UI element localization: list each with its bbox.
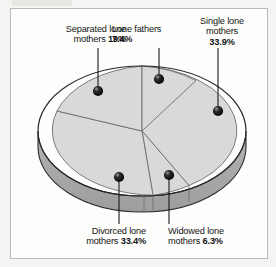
- slice-value-widowed: 6.3%: [203, 236, 223, 246]
- marker-lone-fathers: [154, 74, 164, 84]
- marker-separated: [93, 86, 103, 96]
- slice-label-single: Single lone mothers 33.9%: [186, 16, 258, 47]
- slice-label-widowed: Widowed lone mothers 6.3%: [168, 226, 268, 247]
- pie-top-face: [38, 66, 246, 196]
- slice-value-lone-fathers: 7.4%: [112, 34, 132, 44]
- slice-value-divorced: 33.4%: [121, 236, 146, 246]
- slice-label-single-line2: mothers: [206, 26, 238, 36]
- marker-single: [213, 106, 223, 116]
- slice-label-separated: Separated lone mothers 19%: [22, 24, 126, 45]
- slice-label-widowed-line1: Widowed lone: [168, 226, 224, 236]
- slice-label-widowed-line2: mothers: [168, 236, 203, 246]
- slice-label-lone-fathers-line1: Lone fathers: [112, 24, 161, 34]
- slice-label-divorced-line1: Divorced lone: [92, 226, 146, 236]
- slice-label-single-line1: Single lone: [200, 16, 244, 26]
- marker-widowed: [164, 170, 174, 180]
- slice-label-lone-fathers: Lone fathers 7.4%: [112, 24, 188, 45]
- slice-label-separated-line2: mothers: [74, 34, 109, 44]
- slice-label-divorced: Divorced lone mothers 33.4%: [36, 226, 146, 247]
- marker-divorced: [114, 172, 124, 182]
- pie-chart-figure: Separated lone mothers 19% Lone fathers …: [0, 0, 276, 267]
- slice-value-single: 33.9%: [209, 37, 234, 47]
- slice-label-divorced-line2: mothers: [86, 236, 121, 246]
